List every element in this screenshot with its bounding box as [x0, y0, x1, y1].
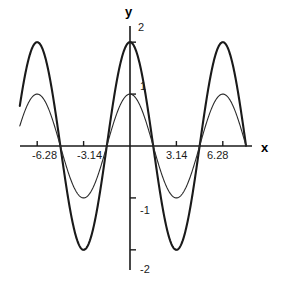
y-tick-label-1: 1: [140, 81, 146, 92]
axes-group: [20, 26, 252, 270]
y-tick-label-neg1: -1: [140, 205, 150, 216]
x-axis-title: x: [261, 141, 268, 154]
x-tick-label-neg628: -6.28: [32, 150, 57, 161]
cosine-plot-figure: 2 1 -1 -2 -6.28 -3.14 3.14 6.28 y x: [0, 0, 285, 287]
y-axis-title: y: [125, 5, 132, 18]
x-tick-label-314: 3.14: [166, 150, 187, 161]
x-tick-label-628: 6.28: [207, 150, 228, 161]
x-tick-label-neg314: -3.14: [77, 150, 102, 161]
y-tick-label-neg2: -2: [140, 264, 150, 275]
y-tick-label-2: 2: [138, 22, 144, 33]
plot-canvas: [0, 0, 285, 287]
